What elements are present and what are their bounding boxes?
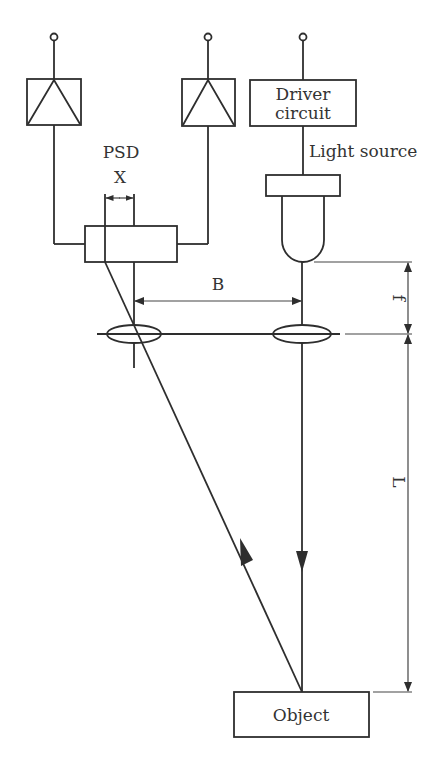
driver-label-line1: Driver (276, 84, 332, 104)
light-source-label: Light source (309, 141, 417, 161)
terminal-driver-icon (300, 34, 307, 41)
driver-label-line2: circuit (275, 103, 331, 123)
down-arrow-icon (296, 551, 308, 572)
terminal-left-icon (51, 34, 58, 41)
reflected-beam (105, 262, 302, 692)
triangulation-diagram: Driver circuit Light source PSD X B (0, 0, 436, 764)
f-label: f (389, 295, 409, 303)
psd-label: PSD (103, 142, 140, 162)
amplifier-right (177, 34, 235, 245)
l-dimension: L (373, 335, 412, 692)
led-bulb-icon (282, 196, 324, 262)
up-arrow-icon (240, 538, 253, 566)
amplifier-left (27, 34, 85, 245)
f-dimension: f (389, 263, 409, 333)
x-label: X (114, 167, 127, 187)
b-label: B (212, 274, 225, 294)
light-source: Light source (266, 141, 417, 262)
terminal-right-icon (205, 34, 212, 41)
receiving-lens (107, 262, 161, 368)
psd-sensor: PSD X (85, 142, 177, 262)
l-label: L (389, 476, 409, 487)
b-dimension: B (135, 274, 301, 301)
emitting-lens (273, 262, 331, 343)
object-box: Object (234, 692, 369, 737)
emitted-beam (296, 343, 308, 692)
object-label: Object (273, 705, 330, 725)
